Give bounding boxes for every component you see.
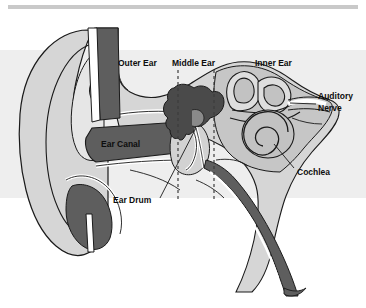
cochlea-group xyxy=(242,110,294,158)
label-inner-ear: Inner Ear xyxy=(255,58,293,68)
label-cochlea: Cochlea xyxy=(297,167,330,177)
label-ear-canal: Ear Canal xyxy=(101,139,140,149)
superior-canal-inner xyxy=(234,78,254,103)
label-outer-ear: Outer Ear xyxy=(118,58,157,68)
posterior-canal-inner xyxy=(264,85,285,106)
top-rule xyxy=(8,5,358,9)
ear-anatomy-svg: Outer Ear Middle Ear Inner Ear Auditory … xyxy=(0,0,366,308)
label-auditory-nerve-line1: Auditory xyxy=(318,91,353,101)
label-middle-ear: Middle Ear xyxy=(172,58,216,68)
label-ear-drum: Ear Drum xyxy=(113,195,152,205)
lobe-stem xyxy=(86,214,94,252)
label-auditory-nerve-line2: Nerve xyxy=(318,103,342,113)
cochlea-body xyxy=(242,110,294,158)
diagram-canvas: Outer Ear Middle Ear Inner Ear Auditory … xyxy=(0,0,366,308)
